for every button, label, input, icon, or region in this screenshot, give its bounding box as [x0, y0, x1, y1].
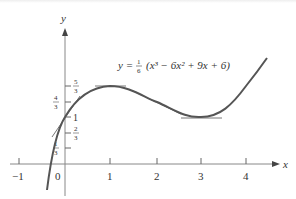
svg-text:2: 2 — [74, 125, 78, 133]
x-ticks — [19, 158, 246, 164]
svg-text:6: 6 — [137, 67, 141, 75]
svg-text:3: 3 — [54, 103, 58, 111]
svg-text:y =: y = — [117, 59, 133, 71]
svg-text:4: 4 — [54, 94, 58, 102]
x-axis-label: x — [282, 158, 288, 170]
x-tick-1: 1 — [107, 170, 113, 182]
y-tick-1: 1 — [73, 112, 78, 123]
x-axis-arrow-icon — [272, 161, 280, 167]
x-tick-0: 0 — [55, 170, 61, 182]
x-tick-2: 2 — [154, 170, 160, 182]
x-tick-4: 4 — [243, 170, 249, 182]
y-tick-2-3: 2 3 — [73, 125, 79, 142]
svg-text:(x³ − 6x² + 9x + 6): (x³ − 6x² + 9x + 6) — [146, 59, 230, 72]
svg-text:3: 3 — [74, 134, 78, 142]
y-tick-4-3: 4 3 — [53, 94, 59, 111]
y-axis-arrow-icon — [62, 28, 68, 36]
equation-label: y = 1 6 (x³ − 6x² + 9x + 6) — [117, 58, 230, 75]
x-tick-3: 3 — [198, 170, 204, 182]
svg-text:3: 3 — [54, 149, 58, 157]
svg-text:5: 5 — [74, 78, 78, 86]
svg-text:1: 1 — [137, 58, 141, 66]
x-tick-minus-1: −1 — [12, 170, 24, 182]
y-axis-label: y — [60, 12, 66, 24]
svg-text:3: 3 — [74, 87, 78, 95]
y-tick-5-3: 5 3 — [73, 78, 79, 95]
cubic-function-plot: y x −1 0 1 2 3 4 5 3 4 3 1 2 3 1 — [0, 0, 296, 199]
